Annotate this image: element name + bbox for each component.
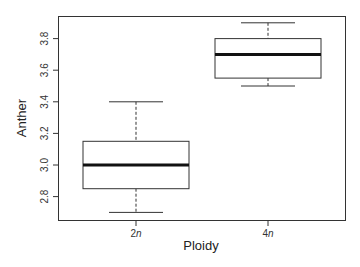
y-axis-title: Anther [14, 98, 29, 137]
y-axis: 2.83.03.23.43.63.8 [39, 31, 59, 203]
y-tick-label: 3.0 [39, 158, 50, 172]
y-tick-label: 2.8 [39, 189, 50, 203]
x-tick-label: 2n [130, 228, 142, 239]
y-tick-label: 3.2 [39, 126, 50, 140]
y-tick-label: 3.6 [39, 63, 50, 77]
y-tick-label: 3.4 [39, 94, 50, 108]
box-series [83, 23, 321, 213]
boxplot-chart: 2.83.03.23.43.63.8 2n4n Anther Ploidy [0, 0, 360, 267]
box-4n [215, 23, 321, 86]
box-2n [83, 102, 189, 213]
y-tick-label: 3.8 [39, 31, 50, 45]
x-axis-title: Ploidy [183, 238, 219, 253]
x-tick-label: 4n [262, 228, 274, 239]
iqr-box [215, 39, 321, 79]
x-axis: 2n4n [130, 221, 274, 240]
